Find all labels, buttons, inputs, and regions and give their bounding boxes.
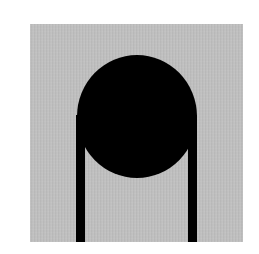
black-circle bbox=[77, 55, 197, 178]
pictogram-figure bbox=[0, 0, 259, 254]
